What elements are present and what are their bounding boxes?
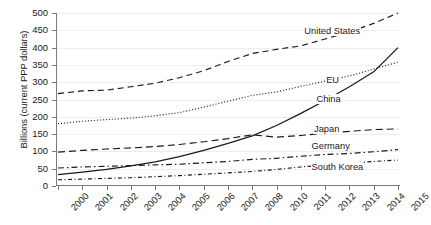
x-tick <box>252 186 253 190</box>
x-tick <box>374 186 375 190</box>
y-tick-label: 0 <box>14 181 48 190</box>
x-tick-label: 2000 <box>69 191 91 213</box>
x-tick-label: 2007 <box>239 191 261 213</box>
x-tick-label: 2011 <box>312 191 333 212</box>
x-tick <box>107 186 108 190</box>
x-tick <box>277 186 278 190</box>
y-tick-label: 50 <box>14 164 48 173</box>
y-tick-label: 350 <box>14 60 48 69</box>
y-tick-label: 300 <box>14 77 48 86</box>
plot-area: United StatesEUChinaJapanGermanySouth Ko… <box>56 13 400 186</box>
y-tick-label: 450 <box>14 25 48 34</box>
x-tick <box>179 186 180 190</box>
x-tick-label: 2004 <box>166 191 188 213</box>
x-tick-label: 2002 <box>118 191 140 213</box>
series-label-china: China <box>315 94 341 104</box>
y-tick-label: 200 <box>14 112 48 121</box>
x-tick <box>325 186 326 190</box>
x-tick <box>301 186 302 190</box>
x-tick <box>204 186 205 190</box>
x-tick <box>398 186 399 190</box>
x-tick-label: 2008 <box>263 191 285 213</box>
x-tick <box>228 186 229 190</box>
y-tick-label: 150 <box>14 129 48 138</box>
x-tick <box>58 186 59 190</box>
x-tick-label: 2014 <box>385 191 407 213</box>
x-tick-label: 2015 <box>409 191 431 213</box>
x-tick-label: 2013 <box>360 191 382 213</box>
x-tick-label: 2006 <box>215 191 237 213</box>
y-tick-label: 500 <box>14 8 48 17</box>
x-tick-label: 2012 <box>336 191 358 213</box>
y-tick-label: 400 <box>14 43 48 52</box>
series-label-japan: Japan <box>313 124 340 134</box>
series-label-eu: EU <box>325 75 340 85</box>
y-tick <box>52 186 56 187</box>
x-tick <box>155 186 156 190</box>
x-tick-label: 2010 <box>288 191 310 213</box>
x-tick <box>131 186 132 190</box>
x-tick <box>349 186 350 190</box>
x-tick-label: 2001 <box>93 191 115 213</box>
x-tick-label: 2003 <box>142 191 164 213</box>
series-line-china <box>58 48 398 175</box>
series-layer <box>56 13 400 186</box>
x-tick-label: 2005 <box>190 191 212 213</box>
series-line-eu <box>58 62 398 124</box>
series-label-south-korea: South Korea <box>311 162 365 172</box>
x-tick <box>82 186 83 190</box>
y-tick-label: 100 <box>14 146 48 155</box>
series-label-germany: Germany <box>311 141 351 151</box>
series-label-united-states: United States <box>303 26 361 36</box>
y-tick-label: 250 <box>14 95 48 104</box>
